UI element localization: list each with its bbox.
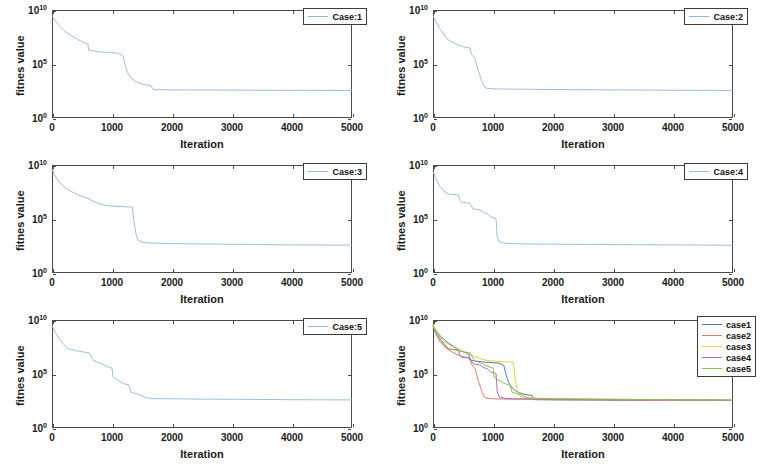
x-tick-label: 0 — [49, 277, 55, 288]
series-line-case5 — [433, 325, 733, 400]
y-tick-label: 100 — [381, 267, 428, 279]
x-tick-label: 4000 — [281, 277, 303, 288]
y-tick-label: 1010 — [381, 314, 428, 326]
chart-legend: Case:5 — [303, 318, 367, 335]
legend-line-swatch — [308, 16, 328, 17]
legend-line-swatch — [308, 326, 328, 327]
legend-line-swatch — [308, 171, 328, 172]
x-tick-label: 3000 — [602, 122, 624, 133]
legend-item: Case:3 — [308, 166, 362, 177]
y-tick-label: 1010 — [381, 159, 428, 171]
y-axis-title: fitnes value — [395, 345, 407, 406]
series-line-case4 — [433, 171, 733, 245]
x-tick-label: 0 — [49, 432, 55, 443]
series-line-case1 — [433, 325, 733, 400]
x-tick-label: 5000 — [722, 277, 744, 288]
chart-panel-4: 0100020003000400050001010105100Iteration… — [381, 155, 762, 310]
chart-legend: Case:4 — [684, 163, 748, 180]
x-axis-title: Iteration — [433, 293, 733, 305]
x-tick-label: 5000 — [341, 432, 363, 443]
legend-line-swatch — [702, 324, 722, 325]
legend-label: Case:3 — [332, 167, 362, 177]
chart-legend: Case:3 — [303, 163, 367, 180]
x-tick-label: 1000 — [101, 432, 123, 443]
x-tick-label: 2000 — [542, 277, 564, 288]
y-tick-label: 1010 — [0, 314, 47, 326]
legend-item: Case:2 — [689, 11, 743, 22]
x-tick-label: 5000 — [722, 122, 744, 133]
legend-item: case5 — [702, 363, 751, 374]
legend-item: case2 — [702, 330, 751, 341]
legend-line-swatch — [702, 346, 722, 347]
series-line-case1 — [52, 15, 352, 90]
legend-label: case2 — [726, 331, 751, 341]
x-axis-title: Iteration — [52, 138, 352, 150]
chart-panel-1: 0100020003000400050001010105100Iteration… — [0, 0, 381, 155]
x-tick-label: 2000 — [161, 122, 183, 133]
x-axis-title: Iteration — [52, 293, 352, 305]
chart-panel-5: 0100020003000400050001010105100Iteration… — [0, 310, 381, 466]
y-axis-title: fitnes value — [14, 345, 26, 406]
y-tick-label: 1010 — [0, 4, 47, 16]
chart-panel-2: 0100020003000400050001010105100Iteration… — [381, 0, 762, 155]
x-tick-label: 4000 — [281, 122, 303, 133]
x-tick-label: 4000 — [662, 277, 684, 288]
legend-line-swatch — [689, 171, 709, 172]
series-line-case2 — [433, 15, 733, 90]
x-tick-label: 3000 — [602, 277, 624, 288]
x-tick-label: 4000 — [662, 432, 684, 443]
y-axis-title: fitnes value — [395, 35, 407, 96]
y-axis-title: fitnes value — [395, 190, 407, 251]
x-tick-label: 5000 — [341, 277, 363, 288]
y-axis-title: fitnes value — [14, 35, 26, 96]
x-tick-label: 2000 — [161, 277, 183, 288]
series-line-case3 — [52, 169, 352, 245]
legend-label: case5 — [726, 364, 751, 374]
legend-label: case3 — [726, 342, 751, 352]
series-line-case2 — [433, 325, 733, 400]
legend-label: Case:2 — [713, 12, 743, 22]
legend-item: case1 — [702, 319, 751, 330]
x-tick-label: 0 — [49, 122, 55, 133]
chart-panel-6: 0100020003000400050001010105100Iteration… — [381, 310, 762, 466]
legend-item: Case:4 — [689, 166, 743, 177]
chart-legend: case1case2case3case4case5 — [697, 316, 756, 377]
y-tick-label: 1010 — [0, 159, 47, 171]
legend-label: Case:4 — [713, 167, 743, 177]
y-tick-label: 1010 — [381, 4, 428, 16]
legend-line-swatch — [702, 335, 722, 336]
x-axis-title: Iteration — [433, 138, 733, 150]
x-axis-title: Iteration — [433, 448, 733, 460]
x-tick-label: 5000 — [341, 122, 363, 133]
x-axis-title: Iteration — [52, 448, 352, 460]
x-tick-label: 3000 — [221, 122, 243, 133]
chart-legend: Case:1 — [303, 8, 367, 25]
y-tick-label: 100 — [381, 112, 428, 124]
x-tick-label: 1000 — [101, 277, 123, 288]
x-tick-label: 1000 — [101, 122, 123, 133]
y-tick-label: 100 — [0, 422, 47, 434]
x-tick-label: 3000 — [602, 432, 624, 443]
chart-panel-3: 0100020003000400050001010105100Iteration… — [0, 155, 381, 310]
figure-panel-grid: 0100020003000400050001010105100Iteration… — [0, 0, 762, 466]
x-tick-label: 2000 — [542, 122, 564, 133]
legend-label: Case:5 — [332, 322, 362, 332]
x-tick-label: 4000 — [662, 122, 684, 133]
legend-label: Case:1 — [332, 12, 362, 22]
x-tick-label: 5000 — [722, 432, 744, 443]
series-line-case5 — [52, 325, 352, 400]
legend-line-swatch — [689, 16, 709, 17]
y-tick-label: 100 — [0, 112, 47, 124]
x-tick-label: 0 — [430, 277, 436, 288]
series-line-case4 — [433, 326, 733, 400]
x-tick-label: 1000 — [482, 432, 504, 443]
legend-item: case4 — [702, 352, 751, 363]
legend-item: Case:1 — [308, 11, 362, 22]
x-tick-label: 1000 — [482, 122, 504, 133]
x-tick-label: 0 — [430, 432, 436, 443]
x-tick-label: 3000 — [221, 432, 243, 443]
legend-label: case1 — [726, 320, 751, 330]
legend-item: case3 — [702, 341, 751, 352]
x-tick-label: 4000 — [281, 432, 303, 443]
chart-legend: Case:2 — [684, 8, 748, 25]
